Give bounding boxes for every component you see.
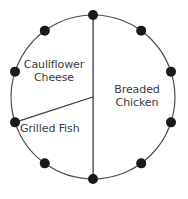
circumference-marker [136,158,146,168]
pie-slice-breaded-chicken[interactable] [93,15,175,179]
pie-chart-canvas [0,0,188,199]
circumference-marker [166,117,176,127]
circumference-marker [10,67,20,77]
circumference-marker [88,10,98,20]
circumference-marker [88,174,98,184]
circumference-marker [166,67,176,77]
circumference-marker [136,26,146,36]
pie-slices [11,15,175,179]
pie-chart-figure: Cauliflower Cheese Breaded Chicken Grill… [0,0,188,199]
circumference-marker [40,26,50,36]
circumference-marker [10,117,20,127]
circumference-marker [40,158,50,168]
